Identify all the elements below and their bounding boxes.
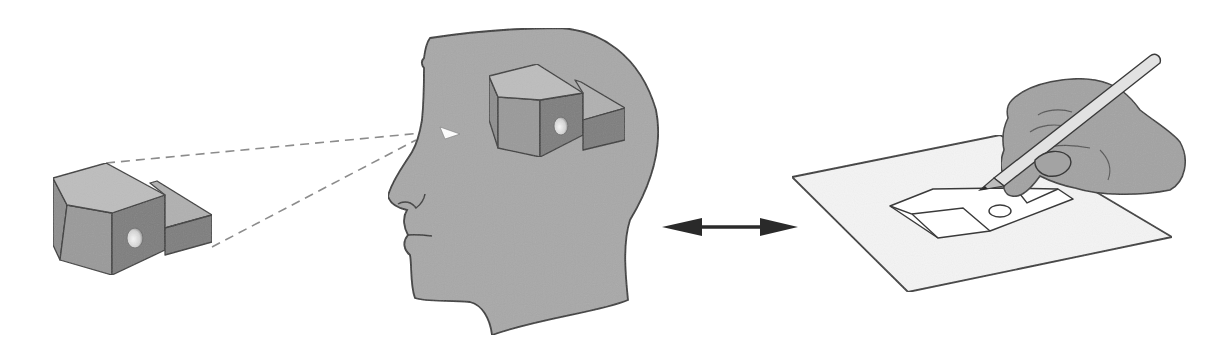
hand-silhouette <box>1001 79 1185 196</box>
double-arrow-icon <box>662 218 798 236</box>
sight-line <box>212 140 416 247</box>
arrow-right-head <box>760 218 798 236</box>
hole-icon <box>127 228 143 248</box>
thumb <box>1035 151 1071 176</box>
arrow-left-head <box>662 218 702 236</box>
object-block-icon <box>53 163 212 275</box>
diagram-canvas <box>0 0 1224 350</box>
sight-line <box>106 133 422 163</box>
block-face-front-left <box>498 97 540 157</box>
hand-icon <box>1001 79 1185 196</box>
visualization-diagram <box>0 0 1224 350</box>
hole-icon <box>554 117 568 135</box>
block-face-front-left <box>60 205 112 275</box>
